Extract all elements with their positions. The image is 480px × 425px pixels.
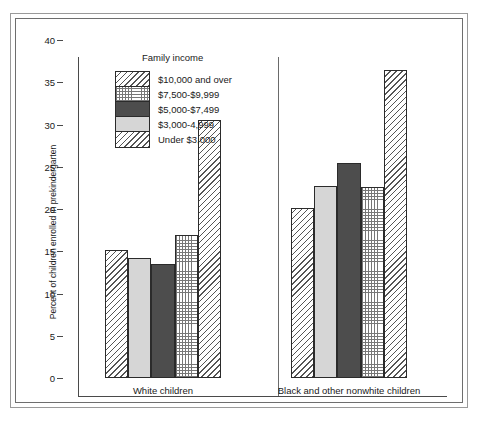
y-axis-title: Percent of children enrolled in prekinde… bbox=[48, 132, 58, 332]
bar bbox=[198, 120, 221, 378]
y-axis-tick bbox=[57, 82, 63, 83]
bar bbox=[314, 186, 337, 378]
bar bbox=[128, 258, 151, 378]
legend-label: Under $3,000 bbox=[158, 135, 216, 145]
y-axis-line bbox=[78, 57, 79, 397]
bar bbox=[105, 250, 128, 378]
bar bbox=[384, 70, 407, 378]
category-label: Black and other nonwhite children bbox=[249, 385, 449, 396]
y-axis-tick-label: 0 bbox=[15, 374, 55, 384]
legend-label: $3,000-4,999 bbox=[158, 120, 214, 130]
y-axis-tick-label: 35 bbox=[15, 78, 55, 88]
legend-label: $10,000 and over bbox=[158, 75, 232, 85]
category-label: White children bbox=[63, 385, 263, 396]
legend-label: $7,500-$9,999 bbox=[158, 90, 219, 100]
y-axis-tick bbox=[57, 40, 63, 41]
bar bbox=[175, 235, 198, 378]
y-axis-tick-label: 30 bbox=[15, 121, 55, 131]
legend-label: $5,000-$7,499 bbox=[158, 105, 219, 115]
legend-swatch bbox=[116, 87, 149, 102]
legend-swatch bbox=[116, 102, 149, 117]
y-axis-tick bbox=[57, 336, 63, 337]
bar bbox=[361, 187, 384, 378]
figure-inner-frame: 4035302520151050 Percent of children enr… bbox=[15, 18, 463, 403]
y-axis-tick bbox=[57, 378, 63, 379]
bar bbox=[151, 264, 174, 378]
group-divider-line bbox=[278, 57, 279, 396]
bar bbox=[291, 208, 314, 378]
legend-swatch-stack bbox=[115, 71, 150, 148]
legend-swatch bbox=[116, 117, 149, 132]
legend-title: Family income bbox=[142, 52, 203, 63]
y-axis-tick bbox=[57, 125, 63, 126]
y-axis-tick-label: 5 bbox=[15, 332, 55, 342]
legend-swatch bbox=[116, 72, 149, 87]
x-axis-line bbox=[78, 396, 447, 397]
figure-outer-frame: 4035302520151050 Percent of children enr… bbox=[10, 13, 468, 408]
bar bbox=[337, 163, 360, 378]
legend-swatch bbox=[116, 132, 149, 147]
y-axis-tick-label: 40 bbox=[15, 36, 55, 46]
plot-area: 4035302520151050 Percent of children enr… bbox=[16, 19, 462, 402]
